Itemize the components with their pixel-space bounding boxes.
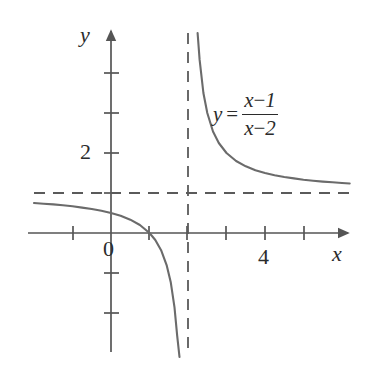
function-graph-figure — [0, 0, 378, 365]
numerator-constant: 1 — [265, 88, 276, 112]
y-tick-label-2: 2 — [80, 141, 91, 163]
numerator-operator: − — [254, 88, 266, 112]
equation-denominator: x−2 — [242, 116, 278, 141]
denominator-constant: 2 — [265, 116, 276, 140]
x-tick-label-4: 4 — [258, 246, 269, 268]
origin-label: 0 — [103, 238, 114, 260]
equation-equals-sign: = — [226, 102, 238, 127]
equation-annotation: y = x−1 x−2 — [213, 88, 278, 141]
y-axis-label: y — [80, 24, 90, 46]
equation-lhs: y — [213, 102, 222, 127]
equation-fraction: x−1 x−2 — [242, 88, 278, 141]
asymptotes-group — [34, 33, 356, 352]
denominator-operator: − — [254, 116, 266, 140]
fraction-bar — [242, 114, 278, 116]
curve-left-branch — [34, 203, 180, 357]
denominator-variable: x — [244, 116, 253, 140]
x-axis-label: x — [332, 243, 342, 265]
numerator-variable: x — [244, 88, 253, 112]
curve-group — [34, 33, 350, 357]
equation-numerator: x−1 — [242, 88, 278, 113]
